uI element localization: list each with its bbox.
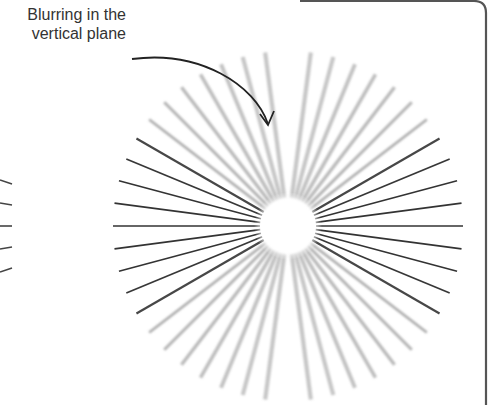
left-spoke — [0, 180, 12, 184]
annotation-label: Blurring in the vertical plane — [27, 5, 126, 43]
spoke — [308, 246, 412, 350]
annotation-line-2: vertical plane — [32, 25, 126, 42]
left-spoke — [0, 203, 12, 205]
spoke — [164, 246, 268, 350]
left-starburst — [0, 180, 12, 272]
left-spoke — [0, 268, 12, 272]
center-hole — [254, 192, 322, 260]
spoke — [308, 102, 412, 206]
starburst-figure — [0, 0, 497, 405]
diagram: Blurring in the vertical plane — [0, 0, 497, 405]
spoke — [164, 102, 268, 206]
left-spoke — [0, 247, 12, 249]
annotation-line-1: Blurring in the — [27, 6, 126, 23]
